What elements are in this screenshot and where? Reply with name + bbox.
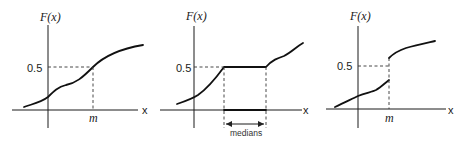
half-level-label: 0.5 (176, 62, 191, 74)
panel-continuous: F(x) x 0.5 m (12, 10, 148, 128)
half-level-label: 0.5 (337, 60, 352, 72)
x-axis-label: x (142, 104, 148, 116)
panel-flat-segment: F(x) x 0.5 medians (160, 9, 309, 138)
x-axis-label: x (448, 104, 454, 116)
cdf-curve-lower (335, 80, 389, 107)
y-axis-label: F(x) (185, 9, 207, 23)
median-label: m (89, 111, 98, 125)
median-label: m (385, 111, 394, 125)
y-axis-label: F(x) (39, 10, 61, 24)
cdf-curve-upper (389, 41, 435, 58)
half-level-label: 0.5 (27, 62, 42, 74)
cdf-curve (24, 45, 143, 107)
x-axis-label: x (303, 104, 309, 116)
cdf-curve (177, 43, 303, 104)
y-axis-label: F(x) (349, 9, 371, 23)
panel-jump: F(x) x 0.5 m (326, 9, 454, 128)
median-cdf-diagrams: F(x) x 0.5 m F(x) x 0.5 medians F(x) x 0… (0, 0, 464, 144)
medians-label: medians (230, 128, 262, 138)
